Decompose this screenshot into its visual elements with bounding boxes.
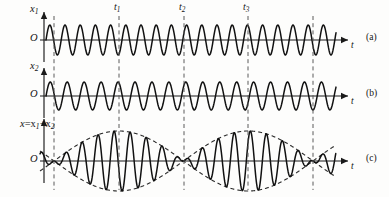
marker-label-t3: t3 bbox=[243, 2, 249, 14]
panel-a-time-axis-label: t bbox=[351, 41, 354, 51]
panel-c-label: (c) bbox=[366, 154, 377, 164]
panel-a-value-axis-arrowhead bbox=[41, 12, 47, 19]
panel-b-time-axis-label: t bbox=[351, 97, 354, 107]
panel-b-value-axis-arrowhead bbox=[41, 68, 47, 75]
marker-label-t1: t1 bbox=[114, 2, 120, 14]
panel-c-time-axis-label: t bbox=[351, 162, 354, 172]
figure-canvas bbox=[0, 0, 389, 197]
panel-b-label: (b) bbox=[366, 89, 377, 99]
panel-b-y-axis-label: x2 bbox=[30, 61, 38, 73]
panel-c-origin-label: O bbox=[30, 154, 38, 165]
panel-a-origin-label: O bbox=[30, 33, 38, 44]
generated-graphics bbox=[40, 12, 348, 191]
panel-a-label: (a) bbox=[366, 33, 377, 43]
panel-b-origin-label: O bbox=[30, 89, 38, 100]
marker-label-t2: t2 bbox=[179, 2, 185, 14]
panel-c-time-axis-arrowhead bbox=[341, 158, 348, 164]
panel-b-time-axis-arrowhead bbox=[341, 93, 348, 99]
beats-superposition-figure: x1 O t (a) x2 O t (b) x=x1+x2 O t (c) t1… bbox=[0, 0, 389, 197]
panel-c-y-axis-label: x=x1+x2 bbox=[20, 119, 55, 131]
panel-a-y-axis-label: x1 bbox=[30, 4, 38, 16]
panel-a-time-axis-arrowhead bbox=[341, 37, 348, 43]
